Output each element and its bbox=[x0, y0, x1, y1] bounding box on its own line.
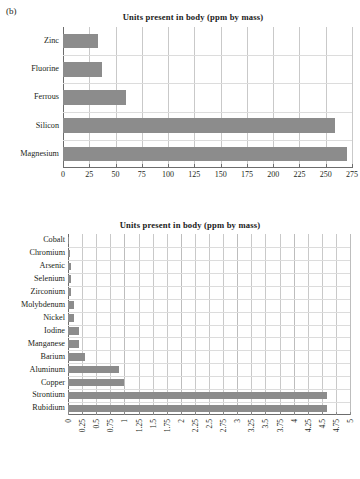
chart-bottom-plot-wrap: CobaltChromiumArsenicSeleniumZirconiumMo… bbox=[0, 234, 360, 415]
category-label: Chromium bbox=[0, 247, 68, 260]
category-label: Molybdenum bbox=[0, 299, 68, 312]
x-tick-label: 4.5 bbox=[317, 419, 326, 429]
x-tick-label: 1 bbox=[120, 419, 129, 423]
category-label: Nickel bbox=[0, 312, 68, 325]
chart-bottom-plot-area bbox=[68, 234, 350, 415]
x-tick-label: 5 bbox=[346, 419, 355, 423]
x-tick-mark bbox=[209, 412, 210, 415]
category-label: Rubidium bbox=[0, 402, 68, 415]
category-label: Barium bbox=[0, 350, 68, 363]
x-tick-label: 4.25 bbox=[303, 419, 312, 432]
x-tick-mark bbox=[194, 164, 195, 168]
bar-row bbox=[68, 376, 350, 389]
x-tick-mark bbox=[265, 412, 266, 415]
category-label: Cobalt bbox=[0, 234, 68, 247]
category-label: Zirconium bbox=[0, 286, 68, 299]
bar-arsenic bbox=[68, 263, 71, 270]
bar-strontium bbox=[68, 392, 327, 399]
bar-rubidium bbox=[68, 405, 327, 412]
bar-series bbox=[68, 234, 350, 415]
bar-row bbox=[63, 55, 352, 83]
x-tick-mark bbox=[280, 412, 281, 415]
x-tick-mark bbox=[124, 412, 125, 415]
x-tick-mark bbox=[195, 412, 196, 415]
x-tick-label: 175 bbox=[241, 170, 253, 179]
bar-barium bbox=[68, 353, 85, 360]
gridline-vertical bbox=[350, 234, 351, 415]
bar-fluorine bbox=[63, 62, 102, 77]
x-tick-mark bbox=[181, 412, 182, 415]
x-tick-mark bbox=[153, 412, 154, 415]
bar-row bbox=[63, 83, 352, 111]
x-tick-label: 1.25 bbox=[134, 419, 143, 432]
bar-nickel bbox=[68, 314, 74, 321]
bar-row bbox=[68, 299, 350, 312]
x-tick-label: 1.5 bbox=[148, 419, 157, 429]
x-tick-label: 25 bbox=[85, 170, 93, 179]
bar-row bbox=[63, 27, 352, 55]
bar-silicon bbox=[63, 118, 335, 133]
category-label: Magnesium bbox=[0, 140, 63, 168]
x-tick-label: 100 bbox=[162, 170, 174, 179]
chart-top-plot-area bbox=[63, 27, 352, 168]
x-tick-mark bbox=[68, 412, 69, 415]
bar-selenium bbox=[68, 275, 71, 282]
category-label: Manganese bbox=[0, 337, 68, 350]
x-tick-label: 3.75 bbox=[275, 419, 284, 432]
category-label: Arsenic bbox=[0, 260, 68, 273]
x-tick-label: 2 bbox=[176, 419, 185, 423]
x-tick-label: 4.75 bbox=[331, 419, 340, 432]
bar-series bbox=[63, 27, 352, 168]
chart-top-category-axis: ZincFluorineFerrousSiliconMagnesium bbox=[0, 27, 63, 168]
bar-zirconium bbox=[68, 288, 71, 295]
x-tick-mark bbox=[350, 412, 351, 415]
x-tick-label: 0 bbox=[64, 419, 73, 423]
x-tick-label: 225 bbox=[293, 170, 305, 179]
bar-row bbox=[63, 112, 352, 140]
x-tick-mark bbox=[116, 164, 117, 168]
bar-row bbox=[68, 324, 350, 337]
bar-row bbox=[68, 286, 350, 299]
category-label: Copper bbox=[0, 376, 68, 389]
x-tick-mark bbox=[322, 412, 323, 415]
x-tick-mark bbox=[299, 164, 300, 168]
bar-chromium bbox=[68, 250, 70, 257]
x-tick-mark bbox=[247, 164, 248, 168]
bar-copper bbox=[68, 379, 124, 386]
chart-top-x-tick-row: 0255075100125150175200225250275 bbox=[63, 168, 352, 182]
x-tick-mark bbox=[96, 412, 97, 415]
x-tick-label: 150 bbox=[215, 170, 227, 179]
x-tick-label: 0 bbox=[61, 170, 65, 179]
bar-row bbox=[68, 234, 350, 247]
x-tick-mark bbox=[139, 412, 140, 415]
bar-row bbox=[68, 260, 350, 273]
x-tick-mark bbox=[110, 412, 111, 415]
x-tick-mark bbox=[237, 412, 238, 415]
x-tick-mark bbox=[221, 164, 222, 168]
bar-row bbox=[68, 273, 350, 286]
category-label: Silicon bbox=[0, 112, 63, 140]
chart-bottom: Units present in body (ppm by mass) Coba… bbox=[0, 220, 360, 467]
chart-bottom-title: Units present in body (ppm by mass) bbox=[20, 220, 360, 230]
x-tick-label: 0.5 bbox=[92, 419, 101, 429]
x-tick-mark bbox=[89, 164, 90, 168]
x-tick-mark bbox=[336, 412, 337, 415]
x-tick-mark bbox=[223, 412, 224, 415]
x-tick-mark bbox=[63, 164, 64, 168]
bar-row bbox=[68, 247, 350, 260]
chart-top: Units present in body (ppm by mass) Zinc… bbox=[0, 12, 360, 182]
bar-cobalt bbox=[68, 237, 69, 244]
x-tick-mark bbox=[273, 164, 274, 168]
bar-ferrous bbox=[63, 90, 126, 105]
x-tick-mark bbox=[168, 164, 169, 168]
category-label: Iodine bbox=[0, 324, 68, 337]
bar-zinc bbox=[63, 34, 98, 49]
gridline-vertical bbox=[352, 27, 353, 168]
chart-top-plot-wrap: ZincFluorineFerrousSiliconMagnesium bbox=[0, 27, 360, 168]
category-label: Selenium bbox=[0, 273, 68, 286]
chart-top-title: Units present in body (ppm by mass) bbox=[26, 12, 360, 22]
x-tick-mark bbox=[142, 164, 143, 168]
category-label: Ferrous bbox=[0, 83, 63, 111]
x-tick-mark bbox=[82, 412, 83, 415]
bar-aluminum bbox=[68, 366, 119, 373]
